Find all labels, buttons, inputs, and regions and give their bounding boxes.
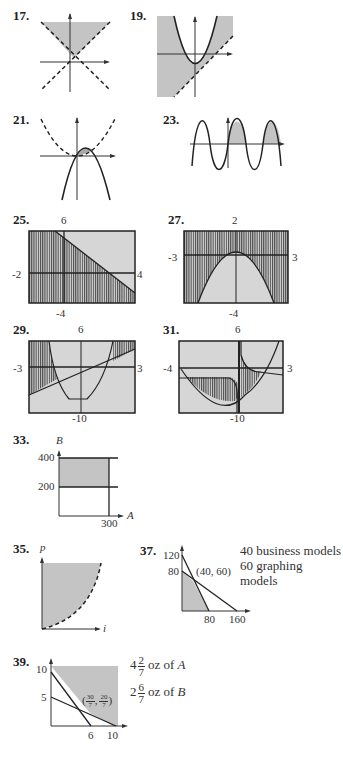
window-right-25: 4 <box>137 268 143 280</box>
problem-number-23: 23. <box>163 112 179 128</box>
window-right-31: 3 <box>287 362 293 374</box>
graph-19 <box>157 16 235 98</box>
tick-80-y: 80 <box>168 565 179 577</box>
intersection-point-39: (307,207) <box>82 694 112 709</box>
window-left-25: -2 <box>12 268 21 280</box>
answer-39-line-2: 267oz of B <box>130 682 186 705</box>
tick-5-y: 5 <box>41 691 47 703</box>
window-bottom-29: -10 <box>72 412 87 424</box>
answer-37-line-2: 60 graphing models <box>240 558 343 588</box>
axis-label-p: p <box>40 541 46 553</box>
tick-300: 300 <box>101 517 118 529</box>
tick-200: 200 <box>38 480 55 492</box>
window-left-27: -3 <box>168 251 177 263</box>
axis-label-i: i <box>103 622 106 634</box>
tick-10-y: 10 <box>36 663 47 675</box>
problem-number-35: 35. <box>13 541 29 557</box>
problem-number-17: 17. <box>13 8 29 24</box>
problem-number-37: 37. <box>140 543 156 559</box>
window-right-29: 3 <box>137 362 143 374</box>
problem-number-33: 33. <box>13 432 29 448</box>
tick-400: 400 <box>38 451 55 463</box>
calc-graph-31 <box>179 341 283 413</box>
window-bottom-27: -4 <box>229 307 238 319</box>
window-right-27: 3 <box>292 251 298 263</box>
window-left-31: -4 <box>163 362 172 374</box>
problem-number-25: 25. <box>13 212 29 228</box>
calc-graph-29 <box>29 341 135 413</box>
problem-number-27: 27. <box>168 212 184 228</box>
answer-37-line-1: 40 business models <box>240 543 341 558</box>
answer-39-line-1: 427oz of A <box>130 655 186 678</box>
tick-6-x: 6 <box>88 729 94 741</box>
graph-23 <box>190 116 286 170</box>
problem-number-19: 19. <box>130 8 146 24</box>
graph-33 <box>58 450 128 518</box>
window-left-29: -3 <box>13 362 22 374</box>
window-bottom-31: -10 <box>230 412 245 424</box>
problem-number-39: 39. <box>13 654 29 670</box>
tick-10-x: 10 <box>107 729 118 741</box>
problem-number-31: 31. <box>163 322 179 338</box>
problem-number-21: 21. <box>13 112 29 128</box>
tick-160: 160 <box>229 613 246 625</box>
window-top-29: 6 <box>78 323 84 335</box>
calc-graph-25 <box>29 231 135 303</box>
window-top-31: 6 <box>235 323 241 335</box>
calc-graph-27 <box>184 231 288 303</box>
axis-label-B: B <box>56 434 63 446</box>
graph-17 <box>38 12 114 94</box>
window-top-27: 2 <box>232 214 238 226</box>
graph-21 <box>38 116 120 202</box>
axis-label-A: A <box>127 509 134 521</box>
tick-120: 120 <box>163 549 180 561</box>
window-bottom-25: -4 <box>56 307 65 319</box>
tick-80-x: 80 <box>204 613 215 625</box>
problem-number-29: 29. <box>13 322 29 338</box>
graph-35 <box>41 557 103 631</box>
window-top-25: 6 <box>61 214 67 226</box>
